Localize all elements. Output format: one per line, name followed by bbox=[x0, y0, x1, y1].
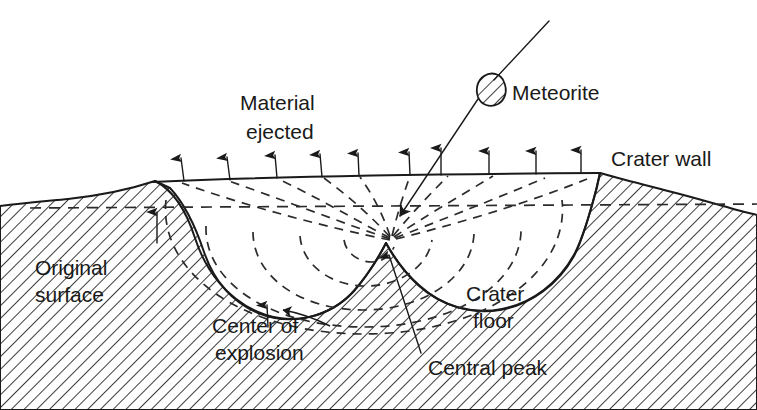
ejecta-arrow-4 bbox=[320, 154, 322, 177]
label-crater-floor-line2: floor bbox=[473, 309, 514, 332]
ground-mass bbox=[0, 173, 757, 410]
label-material-ejected-line1: Material bbox=[240, 91, 315, 114]
label-original-surface-line2: surface bbox=[35, 283, 104, 306]
meteorite-icon bbox=[477, 74, 506, 106]
ground-hatched-body bbox=[0, 173, 757, 410]
label-central-peak: Central peak bbox=[428, 356, 548, 379]
rim-line-group bbox=[152, 173, 600, 182]
crater-cross-section-svg: Meteorite Material ejected Crater wall O… bbox=[0, 0, 757, 410]
radial-ray-3 bbox=[278, 179, 390, 238]
meteorite-impact-arrow bbox=[400, 99, 478, 216]
radial-ray-group bbox=[182, 176, 587, 240]
crater-diagram-root: Meteorite Material ejected Crater wall O… bbox=[0, 0, 757, 410]
label-material-ejected-line2: ejected bbox=[246, 120, 314, 143]
label-crater-floor-line1: Crater bbox=[466, 282, 524, 305]
ejecta-arrow-6 bbox=[409, 152, 410, 175]
label-meteorite: Meteorite bbox=[512, 81, 600, 104]
ejecta-blanket-rim-line bbox=[152, 173, 600, 182]
label-center-of-explosion-line1: Center of bbox=[212, 314, 299, 337]
radial-ray-10 bbox=[396, 179, 587, 239]
radial-ray-2 bbox=[229, 181, 390, 239]
label-center-of-explosion-line2: explosion bbox=[215, 341, 304, 364]
ejecta-arrow-3 bbox=[275, 155, 277, 178]
radial-ray-8 bbox=[394, 176, 493, 237]
meteorite-incoming-path bbox=[494, 21, 549, 80]
radial-ray-1 bbox=[182, 183, 390, 240]
ejecta-arrow-5 bbox=[358, 153, 359, 176]
meteorite-trajectory-group bbox=[400, 21, 549, 216]
ejecta-arrow-1 bbox=[181, 158, 184, 181]
meteorite-body-group bbox=[477, 74, 506, 106]
ejecta-arrow-2 bbox=[227, 157, 230, 180]
label-crater-wall: Crater wall bbox=[611, 147, 711, 170]
label-original-surface-line1: Original bbox=[35, 256, 107, 279]
